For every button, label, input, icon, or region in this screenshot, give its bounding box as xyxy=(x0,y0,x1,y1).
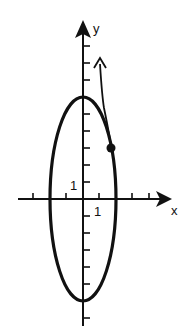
point-on-ellipse xyxy=(107,144,116,153)
y-axis-ticks xyxy=(83,46,90,318)
y-unit-label: 1 xyxy=(70,178,77,193)
x-axis: x 1 xyxy=(18,191,178,219)
x-axis-label: x xyxy=(171,203,178,218)
x-unit-label: 1 xyxy=(94,204,101,219)
y-axis-label: y xyxy=(93,21,100,36)
direction-arrow xyxy=(94,58,111,146)
ellipse-diagram: x 1 y 1 xyxy=(0,0,191,334)
